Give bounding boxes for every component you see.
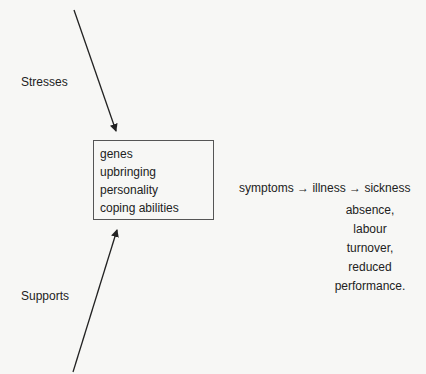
supports-label: Supports <box>21 289 69 303</box>
outcome-item: turnover, <box>320 239 420 258</box>
outcome-item: labour <box>320 220 420 239</box>
chain-symptoms: symptoms <box>239 181 294 195</box>
chain-sickness: sickness <box>364 181 410 195</box>
outcome-item: performance. <box>320 277 420 296</box>
box-item-coping-abilities: coping abilities <box>100 199 213 217</box>
outcome-item: reduced <box>320 258 420 277</box>
stresses-arrow <box>74 10 116 131</box>
stresses-label: Stresses <box>21 75 68 89</box>
chain-illness: illness <box>312 181 345 195</box>
box-item-upbringing: upbringing <box>100 163 213 181</box>
chain-arrow-icon: → <box>349 181 361 195</box>
outcome-item: absence, <box>320 201 420 220</box>
outcome-chain: symptoms → illness → sickness <box>239 181 410 195</box>
box-item-personality: personality <box>100 181 213 199</box>
box-item-genes: genes <box>100 145 213 163</box>
outcomes-list: absence, labour turnover, reduced perfor… <box>320 201 420 296</box>
individual-factors-box: genes upbringing personality coping abil… <box>93 140 214 220</box>
supports-arrow <box>73 230 117 372</box>
chain-arrow-icon: → <box>297 181 309 195</box>
